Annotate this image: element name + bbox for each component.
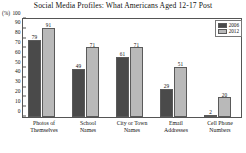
bar-2006-city-or-town-names[interactable]: 61 [116,57,129,117]
bar-value-label: 51 [178,62,183,67]
bar-value-label: 91 [46,23,51,28]
y-axis-tick-label: 100 [12,11,23,16]
bar-value-label: 79 [32,35,37,40]
y-axis-tick-label: 80 [15,31,23,36]
bar-value-label: 49 [76,64,81,69]
x-axis-label-line: Numbers [198,127,242,134]
y-axis-tick-label: 10 [15,99,23,104]
bar-2012-school-names[interactable]: 71 [86,47,99,117]
legend-label: 2012 [229,29,239,34]
bar-group: 7991 [23,19,67,117]
y-axis-tick-label: 20 [15,89,23,94]
bar-2012-cell-phone-numbers[interactable]: 20 [218,97,231,117]
bar-group: 4971 [67,19,111,117]
x-axis-label-line: Photos of [22,120,66,127]
plot-area: 0102030405060708090100799149716171295122… [22,18,242,118]
bar-value-label: 71 [134,43,139,48]
x-axis-label-line: Email [154,120,198,127]
x-axis-label-line: Names [66,127,110,134]
bar-value-label: 20 [222,93,227,98]
x-axis-label-email-addresses: EmailAddresses [154,120,198,133]
x-axis-label-line: School [66,120,110,127]
bar-2012-photos-of-themselves[interactable]: 91 [42,28,55,117]
y-axis-tick-label: 90 [15,21,23,26]
x-axis-label-line: Cell Phone [198,120,242,127]
bar-chart: Social Media Profiles: What Americans Ag… [0,0,246,153]
bar-value-label: 2 [209,110,212,115]
chart-legend: 20062012 [215,20,242,37]
x-axis-labels: Photos ofThemselvesSchoolNamesCity or To… [22,120,242,150]
y-axis-unit-label: (%) [2,10,10,16]
x-axis-label-line: Names [110,127,154,134]
x-axis-label-line: Addresses [154,127,198,134]
bar-group: 2951 [155,19,199,117]
x-axis-label-line: City or Town [110,120,154,127]
x-axis-label-photos-of-themselves: Photos ofThemselves [22,120,66,133]
bar-2006-photos-of-themselves[interactable]: 79 [28,40,41,117]
x-axis-label-line: Themselves [22,127,66,134]
y-axis-tick-label: 40 [15,70,23,75]
bar-group: 6171 [111,19,155,117]
y-axis-tick-label: 30 [15,80,23,85]
bar-2012-email-addresses[interactable]: 51 [174,67,187,117]
bar-2006-email-addresses[interactable]: 29 [160,89,173,117]
x-axis-label-school-names: SchoolNames [66,120,110,133]
y-axis-tick-label: 70 [15,40,23,45]
bar-2006-school-names[interactable]: 49 [72,69,85,117]
x-axis-label-city-or-town-names: City or TownNames [110,120,154,133]
bar-2012-city-or-town-names[interactable]: 71 [130,47,143,117]
bar-value-label: 29 [164,84,169,89]
bar-value-label: 71 [90,43,95,48]
legend-swatch-icon [218,23,227,28]
x-axis-label-cell-phone-numbers: Cell PhoneNumbers [198,120,242,133]
chart-title: Social Media Profiles: What Americans Ag… [0,1,246,10]
legend-swatch-icon [218,29,227,34]
y-axis-tick-label: 60 [15,50,23,55]
y-axis-tick-label: 50 [15,60,23,65]
legend-item-2012[interactable]: 2012 [218,29,239,34]
bar-2006-cell-phone-numbers[interactable]: 2 [204,115,217,117]
bar-value-label: 61 [120,52,125,57]
plot-inner: 0102030405060708090100799149716171295122… [23,19,241,117]
